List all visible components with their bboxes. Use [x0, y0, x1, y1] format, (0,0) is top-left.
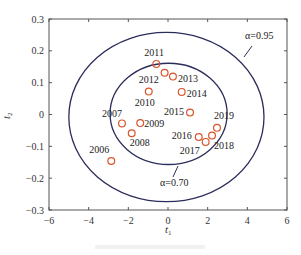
point-label-2019: 2019 [214, 110, 234, 121]
data-point-2019 [214, 124, 221, 131]
y-tick-label: −0.2 [26, 173, 44, 184]
figure-caption [95, 245, 205, 249]
data-point-2013 [170, 73, 177, 80]
point-label-2009: 2009 [144, 118, 164, 129]
data-point-2018 [209, 132, 216, 139]
point-label-2015: 2015 [164, 106, 184, 117]
x-tick-label: 6 [285, 215, 290, 226]
y-axis-ticks: 0.30.20.10−0.1−0.2−0.3 [26, 14, 287, 216]
y-tick-label: 0.2 [32, 45, 45, 56]
point-label-2010: 2010 [135, 97, 155, 108]
x-tick-label: −4 [83, 215, 94, 226]
y-axis-label: t2 [0, 112, 14, 119]
point-label-2006: 2006 [89, 144, 109, 155]
data-point-2014 [178, 88, 185, 95]
point-label-2011: 2011 [144, 47, 164, 58]
y-tick-label: 0.3 [32, 14, 45, 25]
y-tick-label: 0.1 [32, 77, 45, 88]
point-label-2013: 2013 [178, 73, 198, 84]
point-label-2014: 2014 [187, 88, 207, 99]
data-point-2009 [137, 120, 144, 127]
x-tick-label: 4 [245, 215, 250, 226]
data-point-2015 [187, 109, 194, 116]
x-tick-label: −2 [123, 215, 134, 226]
data-point-2012 [161, 69, 168, 76]
x-axis-ticks: −6−4−20246 [44, 19, 290, 226]
alpha-outer-label: α=0.95 [245, 30, 273, 41]
point-label-2018: 2018 [214, 140, 234, 151]
data-point-2007 [119, 120, 126, 127]
point-label-2008: 2008 [130, 137, 150, 148]
data-point-2016 [195, 134, 202, 141]
data-point-2008 [128, 130, 135, 137]
data-point-2006 [108, 158, 115, 165]
alpha-outer-leader [244, 46, 252, 57]
x-tick-label: 2 [205, 215, 210, 226]
x-tick-label: −6 [44, 215, 55, 226]
alpha-inner-label: α=0.70 [160, 177, 188, 188]
data-point-2017 [202, 138, 209, 145]
y-tick-label: −0.3 [26, 205, 44, 216]
point-label-2016: 2016 [172, 130, 192, 141]
scatter-chart: α=0.95 α=0.70 20062007200820092010201120… [0, 0, 301, 255]
y-tick-label: −0.1 [26, 141, 44, 152]
point-label-2017: 2017 [180, 145, 200, 156]
point-label-2012: 2012 [139, 74, 159, 85]
data-point-2010 [145, 88, 152, 95]
point-label-2007: 2007 [102, 108, 122, 119]
alpha-inner-leader [173, 166, 178, 177]
y-tick-label: 0 [39, 109, 44, 120]
